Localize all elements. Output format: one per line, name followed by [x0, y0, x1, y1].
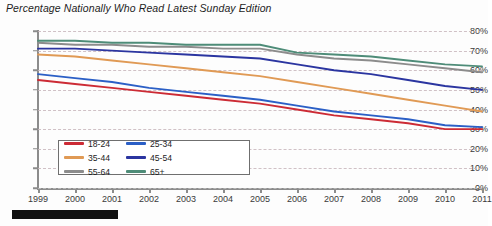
legend-label: 65+ — [150, 167, 165, 177]
x-tick-label: 2002 — [139, 194, 159, 204]
legend-swatch-icon — [64, 156, 84, 159]
x-tick-label: 2000 — [65, 194, 85, 204]
x-tick-label: 2001 — [102, 194, 122, 204]
x-tick-label: 2003 — [176, 194, 196, 204]
legend-item-25-34[interactable]: 25-34 — [126, 137, 188, 151]
x-tick-label: 2007 — [324, 194, 344, 204]
legend-label: 35-44 — [88, 153, 110, 163]
legend-label: 55-64 — [88, 167, 110, 177]
chart-title: Percentage Nationally Who Read Latest Su… — [6, 2, 272, 14]
legend-swatch-icon — [64, 142, 84, 145]
x-tick-label: 2004 — [213, 194, 233, 204]
legend-item-45-54[interactable]: 45-54 — [126, 151, 188, 165]
legend-swatch-icon — [64, 170, 84, 173]
x-tick-mark — [482, 188, 484, 193]
legend-label: 45-54 — [150, 153, 172, 163]
x-tick-label: 2005 — [250, 194, 270, 204]
legend-swatch-icon — [126, 170, 146, 173]
legend-item-55-64[interactable]: 55-64 — [64, 165, 126, 179]
legend-label: 25-34 — [150, 139, 172, 149]
x-tick-label: 1999 — [28, 194, 48, 204]
x-tick-label: 2010 — [435, 194, 455, 204]
series-line-55-64 — [38, 43, 482, 72]
x-tick-label: 2011 — [472, 194, 491, 204]
series-line-18-24 — [38, 80, 482, 129]
series-line-45-54 — [38, 49, 482, 90]
legend-item-65+[interactable]: 65+ — [126, 165, 188, 179]
x-tick-label: 2008 — [361, 194, 381, 204]
chart-legend: 18-2425-3435-4445-5455-6465+ — [58, 140, 250, 175]
legend-item-35-44[interactable]: 35-44 — [64, 151, 126, 165]
footer-bar — [12, 210, 118, 219]
x-tick-label: 2006 — [287, 194, 307, 204]
legend-swatch-icon — [126, 156, 146, 159]
legend-item-18-24[interactable]: 18-24 — [64, 137, 126, 151]
legend-label: 18-24 — [88, 139, 110, 149]
legend-swatch-icon — [126, 142, 146, 145]
x-tick-label: 2009 — [398, 194, 418, 204]
gridline — [38, 188, 482, 189]
